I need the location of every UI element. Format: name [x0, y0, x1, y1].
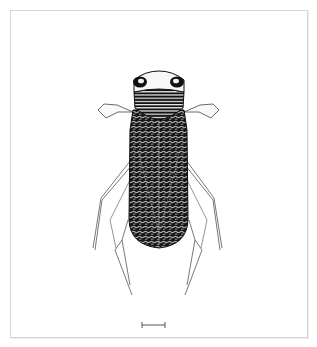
- insect-illustration: [0, 0, 317, 347]
- hind-leg-right: [185, 160, 222, 295]
- front-leg-right: [184, 104, 219, 118]
- insect-body: [129, 110, 188, 248]
- scale-bar: [142, 322, 165, 328]
- front-leg-left: [98, 104, 133, 118]
- hind-leg-left: [93, 160, 132, 295]
